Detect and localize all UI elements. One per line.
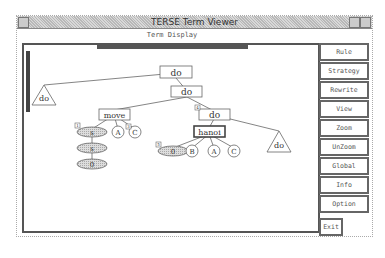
svg-text:do: do — [181, 87, 192, 97]
tree-node-b[interactable]: B — [186, 145, 198, 157]
unzoom-button[interactable]: UnZoom — [319, 138, 369, 156]
tree-node-root[interactable]: do — [160, 66, 192, 78]
svg-text:s: s — [90, 129, 94, 137]
tree-node-s[interactable]: s 1 — [75, 123, 107, 137]
view-button[interactable]: View — [319, 100, 369, 118]
tree-node-a[interactable]: A — [112, 126, 124, 138]
tree-node-s-nested[interactable]: s — [77, 143, 107, 153]
term-tree: do do do move do 4 — [24, 45, 318, 231]
tree-node-move[interactable]: move — [99, 109, 130, 120]
svg-text:0: 0 — [171, 148, 175, 156]
term-viewer-window: TERSE Term Viewer Term Display — [16, 15, 373, 237]
svg-text:do: do — [170, 68, 181, 78]
svg-text:hanoi: hanoi — [198, 128, 221, 137]
rule-button[interactable]: Rule — [319, 43, 369, 61]
tree-node-c[interactable]: C 3 — [126, 124, 141, 138]
tree-node-collapsed-left[interactable]: do — [32, 85, 56, 105]
svg-text:A: A — [210, 148, 217, 156]
maximize-button[interactable] — [349, 17, 360, 28]
tree-node-hanoi[interactable]: hanoi — [194, 126, 225, 137]
svg-text:1: 1 — [76, 123, 79, 128]
svg-text:0: 0 — [90, 161, 94, 169]
svg-text:B: B — [189, 148, 194, 156]
svg-text:do: do — [39, 94, 49, 103]
svg-text:C: C — [132, 129, 137, 137]
svg-text:4: 4 — [196, 105, 199, 110]
tree-node-zero[interactable]: 0 — [77, 159, 107, 169]
svg-text:A: A — [114, 129, 121, 137]
term-display-canvas[interactable]: do do do move do 4 — [22, 43, 320, 233]
svg-text:do: do — [209, 110, 220, 120]
panel-title: Term Display — [17, 31, 327, 39]
global-button[interactable]: Global — [319, 157, 369, 175]
svg-text:5: 5 — [157, 142, 160, 147]
tree-node-c-hanoi[interactable]: C — [228, 145, 240, 157]
tree-node-a-hanoi[interactable]: A — [208, 145, 220, 157]
rewrite-button[interactable]: Rewrite — [319, 81, 369, 99]
minimize-button[interactable] — [360, 17, 371, 28]
exit-button[interactable]: Exit — [319, 218, 343, 236]
strategy-button[interactable]: Strategy — [319, 62, 369, 80]
svg-text:3: 3 — [127, 124, 130, 129]
title-bar[interactable]: TERSE Term Viewer — [17, 16, 372, 29]
zoom-button[interactable]: Zoom — [319, 119, 369, 137]
option-button[interactable]: Option — [319, 195, 369, 213]
svg-text:C: C — [231, 148, 236, 156]
svg-text:move: move — [104, 111, 126, 120]
tree-node-do-inner[interactable]: do 4 — [195, 105, 230, 120]
window-title: TERSE Term Viewer — [17, 16, 372, 28]
svg-text:do: do — [274, 141, 284, 150]
info-button[interactable]: Info — [319, 176, 369, 194]
svg-text:s: s — [90, 145, 94, 153]
tree-node-collapsed-right[interactable]: do — [267, 131, 291, 152]
tree-node-do[interactable]: do — [171, 86, 202, 97]
